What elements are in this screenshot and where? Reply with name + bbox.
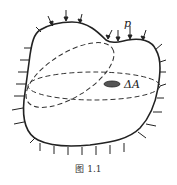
body-diagram — [0, 0, 177, 185]
pressure-label: p — [124, 18, 131, 29]
pressure-arrows — [12, 10, 166, 155]
figure-caption: 图 1.1 — [0, 162, 177, 175]
area-element-label: ΔA — [124, 79, 140, 90]
dashed-section-horizontal — [28, 72, 160, 100]
area-element-delta-a — [104, 81, 120, 87]
